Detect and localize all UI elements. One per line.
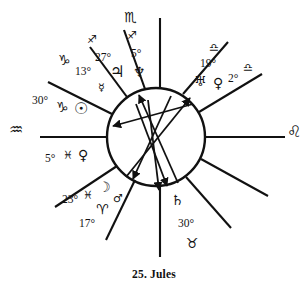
degree-taurus-30: 30° [178, 218, 194, 230]
sign-aquarius-left: ♒ [9, 122, 23, 138]
spoke-lower-right-1 [201, 159, 268, 196]
sign-libra-19: ♎ [209, 42, 219, 53]
planet-moon: ☽ [98, 180, 111, 194]
degree-libra-2: 2° [228, 73, 238, 85]
house-spokes [40, 18, 285, 257]
sign-scorpio-top: ♏ [124, 10, 137, 24]
sign-pisces-5: ♓ [63, 150, 73, 161]
figure-caption: 25. Jules [0, 268, 308, 280]
chart-canvas [0, 0, 308, 299]
planet-neptune: ♆ [133, 65, 146, 79]
degree-capricorn-30: 30° [32, 95, 48, 107]
planet-saturn: ♄ [171, 193, 184, 207]
sign-sagittarius-27: ♐ [87, 34, 97, 45]
planet-mercury: ☿ [98, 82, 105, 93]
astrological-chart: ♏ ♐ 5° ♆ ♎ 19° ♅ ♀ 2° ♎ ♌ ♄ 30° ♉ ♈ 17° … [0, 0, 308, 299]
planet-venus-pisces: ♀ [78, 148, 88, 162]
arrow-to-uranus [126, 98, 190, 177]
arrow-to-neptune [139, 95, 178, 183]
sign-aries-17: ♈ [96, 202, 109, 216]
degree-libra-19: 19° [200, 58, 216, 70]
degree-pisces-23: 23° [62, 194, 78, 206]
planet-sun: ☉ [74, 101, 88, 117]
degree-sagittarius-top: 5° [131, 48, 141, 60]
arrow-to-sun [113, 104, 193, 126]
planet-uranus: ♅ [194, 74, 207, 88]
sign-sagittarius-top: ♐ [127, 30, 137, 41]
degree-pisces-5: 5° [45, 153, 55, 165]
degree-aries-17: 17° [79, 218, 95, 230]
planet-mars: ♂ [113, 193, 123, 204]
sign-pisces-23: ♓ [83, 190, 93, 201]
sign-libra-2: ♎ [243, 62, 253, 73]
sign-taurus-30: ♉ [186, 236, 199, 250]
degree-capricorn-13: 13° [75, 66, 91, 78]
sign-capricorn-30: ♑ [56, 100, 69, 114]
sign-capricorn-13: ♑ [58, 53, 71, 67]
planet-jupiter: ♃ [110, 64, 124, 80]
planet-venus-libra: ♀ [213, 76, 223, 90]
degree-sagittarius-27: 27° [95, 52, 111, 64]
sign-leo-right: ♌ [287, 124, 301, 140]
